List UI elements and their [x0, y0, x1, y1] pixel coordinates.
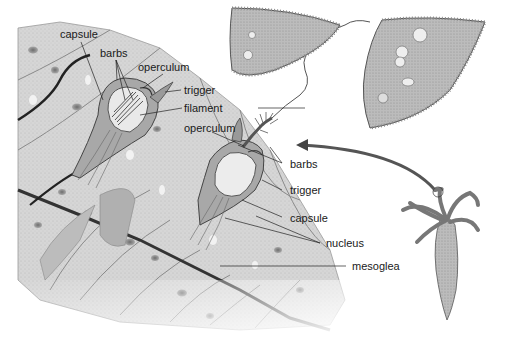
paramecium-prey-large	[363, 18, 485, 128]
label-filament: filament	[184, 102, 223, 114]
hydra-organism	[403, 187, 478, 320]
label-mesoglea: mesoglea	[352, 260, 400, 272]
label-nucleus: nucleus	[326, 237, 364, 249]
label-operculum-undischarged: operculum	[138, 61, 189, 73]
paramecium-prey-small	[230, 8, 340, 75]
label-capsule-undischarged: capsule	[60, 28, 98, 40]
label-barbs-discharged: barbs	[290, 158, 318, 170]
nematocyst-diagram	[0, 0, 507, 339]
label-operculum-discharged: operculum	[184, 122, 235, 134]
label-trigger-discharged: trigger	[290, 184, 321, 196]
label-trigger-undischarged: trigger	[184, 84, 215, 96]
label-capsule-discharged: capsule	[290, 212, 328, 224]
label-barbs-undischarged: barbs	[100, 47, 128, 59]
